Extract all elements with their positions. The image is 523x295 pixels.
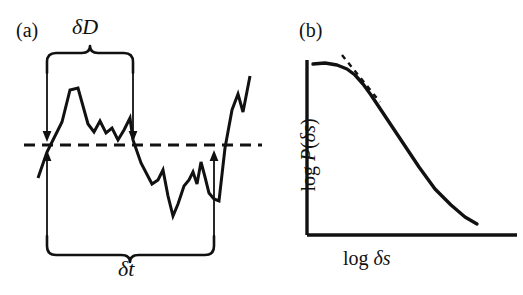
delta-t-right-up-arrow bbox=[210, 150, 219, 235]
delta-d-left-down-arrow bbox=[43, 74, 52, 142]
panel-b-tangent-dashed-line bbox=[342, 55, 380, 102]
delta-t-brace bbox=[47, 236, 214, 262]
panel-b: (b) log δs log P(δs) bbox=[285, 0, 523, 295]
delta-d-brace bbox=[47, 46, 133, 73]
panel-a-graphic bbox=[0, 0, 285, 295]
panel-a: (a) δD δt bbox=[0, 0, 285, 295]
panel-b-powerlaw-curve bbox=[313, 63, 477, 224]
panel-b-graphic bbox=[285, 0, 523, 295]
figure-root: (a) δD δt bbox=[0, 0, 523, 295]
